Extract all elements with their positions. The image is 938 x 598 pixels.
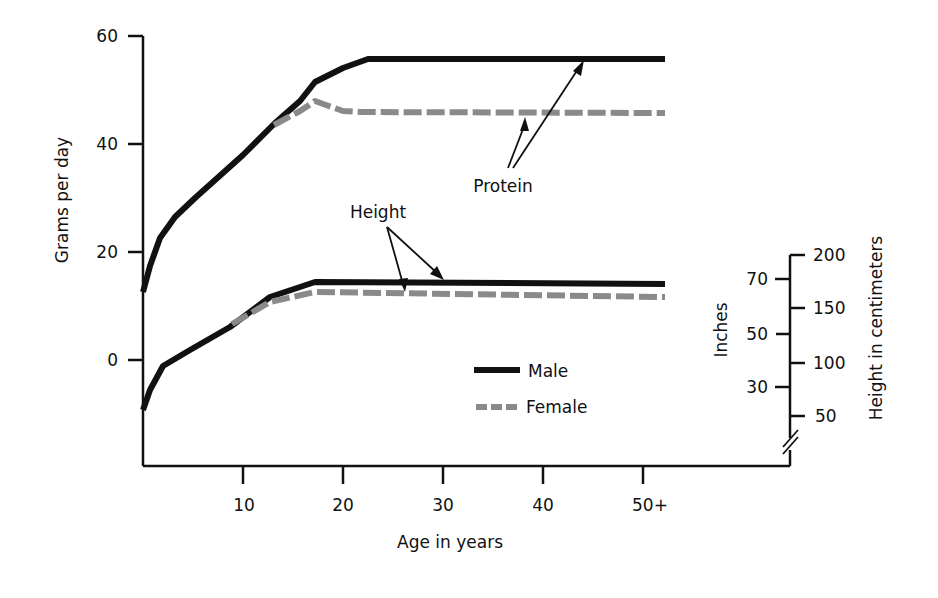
y-tick-label: 30 [746, 377, 768, 397]
chart: 60 40 20 0 10 20 30 40 50+ 70 50 30 200 … [0, 0, 938, 598]
x-tick-label: 30 [432, 495, 454, 515]
legend: Male Female [474, 361, 587, 417]
y-tick-label: 200 [813, 245, 845, 265]
x-tick-label: 10 [233, 495, 255, 515]
protein-annotation: Protein [473, 60, 584, 196]
y-tick-label: 40 [96, 134, 118, 154]
y-tick-labels-left: 60 40 20 0 [96, 26, 118, 370]
y-tick-label: 100 [813, 353, 845, 373]
legend-female-label: Female [526, 397, 587, 417]
y-axis-title-cm: Height in centimeters [866, 236, 886, 421]
male-height-line [143, 282, 665, 410]
y-tick-label: 0 [107, 350, 118, 370]
x-tick-label: 40 [532, 495, 554, 515]
protein-label: Protein [473, 176, 533, 196]
y-tick-label: 50 [815, 406, 837, 426]
y-tick-label: 60 [96, 26, 118, 46]
female-protein-line [274, 101, 665, 125]
female-height-line [232, 292, 665, 324]
x-axis-title: Age in years [397, 532, 503, 552]
height-label: Height [350, 202, 407, 222]
y-axis-title: Grams per day [52, 137, 72, 263]
y-tick-labels-inches: 70 50 30 [746, 269, 768, 397]
y-tick-label: 20 [96, 242, 118, 262]
legend-male-label: Male [528, 361, 568, 381]
y-tick-label: 70 [746, 269, 768, 289]
male-protein-line [143, 59, 665, 292]
x-tick-label: 20 [332, 495, 354, 515]
series-lines [143, 59, 665, 410]
x-tick-label: 50+ [632, 495, 668, 515]
y-tick-labels-cm: 200 150 100 50 [813, 245, 845, 426]
y-axis-title-inches: Inches [711, 302, 731, 357]
axes [128, 36, 805, 484]
x-tick-labels: 10 20 30 40 50+ [233, 495, 668, 515]
y-tick-label: 50 [746, 324, 768, 344]
height-annotation: Height [350, 202, 444, 292]
y-tick-label: 150 [813, 298, 845, 318]
